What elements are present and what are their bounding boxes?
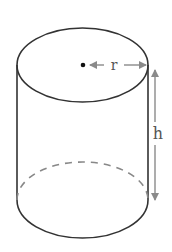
height-label: h (153, 124, 163, 143)
bottom-face-hidden-edge (17, 162, 148, 200)
cylinder-diagram: r h (0, 0, 172, 252)
bottom-face-front-edge (17, 200, 148, 238)
radius-label: r (111, 57, 118, 73)
center-dot (81, 63, 86, 68)
